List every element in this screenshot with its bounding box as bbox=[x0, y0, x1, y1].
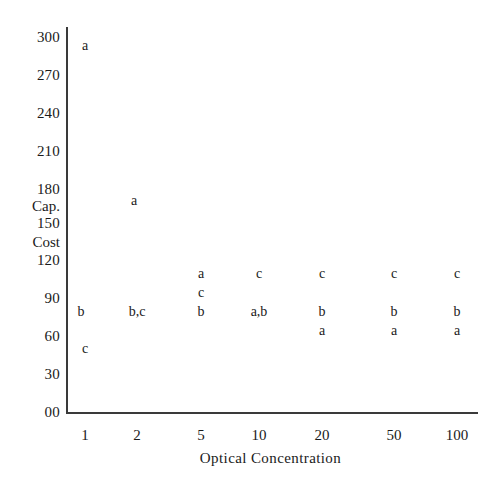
data-point-label: b bbox=[454, 305, 461, 319]
y-axis-tick-labels: 30027024021018015012090603000Cap.Cost bbox=[14, 0, 60, 488]
y-axis-tick-label: 210 bbox=[18, 144, 60, 159]
x-axis-title-text: Optical Concentration bbox=[200, 450, 341, 466]
x-axis-tick-label: 5 bbox=[197, 428, 205, 443]
y-axis-title-part: Cap. bbox=[18, 199, 60, 214]
x-axis-tick-label: 10 bbox=[252, 428, 267, 443]
data-point-label: c bbox=[198, 286, 204, 300]
y-axis-tick-label: 300 bbox=[18, 30, 60, 45]
data-point-label: a bbox=[131, 194, 137, 208]
data-point-label: c bbox=[454, 267, 460, 281]
x-axis-title: Optical Concentration bbox=[0, 450, 499, 466]
data-point-label: b bbox=[319, 305, 326, 319]
data-point-label: a,b bbox=[251, 305, 268, 319]
x-axis-tick-label: 1 bbox=[81, 428, 89, 443]
y-axis-tick-label: 60 bbox=[18, 329, 60, 344]
y-axis-tick-label: 270 bbox=[18, 68, 60, 83]
y-axis-tick-label: 120 bbox=[18, 253, 60, 268]
x-axis-tick-label: 20 bbox=[315, 428, 330, 443]
x-axis-tick-label: 50 bbox=[387, 428, 402, 443]
x-axis-tick-label: 100 bbox=[446, 428, 469, 443]
data-point-label: b,c bbox=[129, 305, 146, 319]
data-point-label: b bbox=[391, 305, 398, 319]
data-point-label: a bbox=[391, 324, 397, 338]
data-point-label: c bbox=[319, 267, 325, 281]
y-axis-tick-label: 00 bbox=[18, 405, 60, 420]
data-point-label: b bbox=[78, 305, 85, 319]
x-axis-tick-label: 2 bbox=[133, 428, 141, 443]
data-point-label: a bbox=[454, 324, 460, 338]
data-point-label: c bbox=[256, 267, 262, 281]
y-axis-tick-label: 90 bbox=[18, 291, 60, 306]
chart-plot-area: 30027024021018015012090603000Cap.Cost 12… bbox=[0, 0, 499, 488]
data-point-label: c bbox=[391, 267, 397, 281]
y-axis-tick-label: 180 bbox=[18, 182, 60, 197]
y-axis-tick-label: 30 bbox=[18, 367, 60, 382]
data-point-label: a bbox=[82, 39, 88, 53]
x-axis-line bbox=[66, 412, 478, 414]
y-axis-title-part: Cost bbox=[18, 235, 60, 250]
data-point-label: b bbox=[198, 305, 205, 319]
data-point-label: a bbox=[319, 324, 325, 338]
y-axis-tick-label: 240 bbox=[18, 106, 60, 121]
y-axis-tick-label: 150 bbox=[18, 216, 60, 231]
y-axis-line bbox=[66, 27, 68, 414]
data-point-label: a bbox=[198, 267, 204, 281]
data-point-label: c bbox=[82, 342, 88, 356]
